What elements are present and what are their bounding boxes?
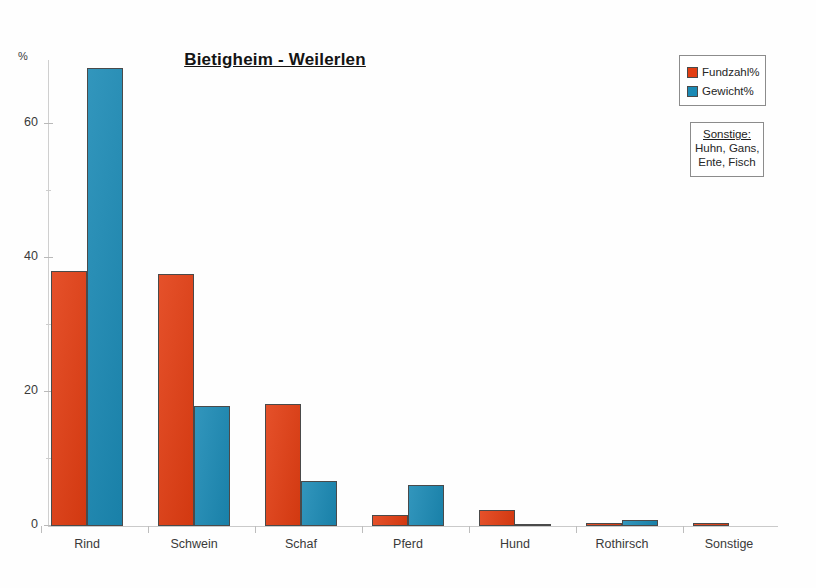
x-axis-label-rothirsch: Rothirsch bbox=[562, 537, 682, 551]
x-tick-mark-sonstige bbox=[683, 526, 684, 533]
x-axis-label-pferd: Pferd bbox=[348, 537, 468, 551]
legend-label-fundzahl: Fundzahl% bbox=[702, 66, 760, 78]
legend-swatch-icon-gewicht bbox=[687, 86, 698, 97]
note-line-1: Huhn, Gans, bbox=[695, 141, 759, 155]
x-tick-mark-hund bbox=[469, 526, 470, 533]
bar-schwein-gewicht bbox=[194, 406, 230, 526]
x-axis-label-hund: Hund bbox=[455, 537, 575, 551]
bar-hund-fundzahl bbox=[479, 510, 515, 526]
x-axis-label-schwein: Schwein bbox=[134, 537, 254, 551]
bar-hund-gewicht bbox=[515, 524, 551, 526]
x-tick-mark-pferd bbox=[362, 526, 363, 533]
x-tick-mark-rothirsch bbox=[576, 526, 577, 533]
legend-label-gewicht: Gewicht% bbox=[702, 85, 754, 97]
x-axis-label-sonstige: Sonstige bbox=[669, 537, 789, 551]
bar-sonstige-fundzahl bbox=[693, 523, 729, 526]
bar-schaf-fundzahl bbox=[265, 404, 301, 526]
x-tick-mark-rind bbox=[41, 526, 42, 533]
legend: Fundzahl% Gewicht% bbox=[679, 55, 766, 106]
x-tick-mark-schwein bbox=[148, 526, 149, 533]
bar-schaf-gewicht bbox=[301, 481, 337, 526]
note-box-sonstige: Sonstige: Huhn, Gans, Ente, Fisch bbox=[690, 122, 764, 177]
bar-pferd-gewicht bbox=[408, 485, 444, 526]
bar-rind-gewicht bbox=[87, 68, 123, 526]
x-axis-label-schaf: Schaf bbox=[241, 537, 361, 551]
legend-item-gewicht[interactable]: Gewicht% bbox=[687, 85, 760, 97]
x-axis-label-rind: Rind bbox=[27, 537, 147, 551]
bar-pferd-fundzahl bbox=[372, 515, 408, 526]
bar-rind-fundzahl bbox=[51, 271, 87, 526]
bar-rothirsch-gewicht bbox=[622, 520, 658, 526]
note-title: Sonstige: bbox=[695, 128, 759, 140]
chart-canvas: Bietigheim - Weilerlen % 6040200 RindSch… bbox=[0, 0, 816, 588]
x-tick-mark-schaf bbox=[255, 526, 256, 533]
legend-item-fundzahl[interactable]: Fundzahl% bbox=[687, 66, 760, 78]
bar-rothirsch-fundzahl bbox=[586, 523, 622, 526]
note-line-2: Ente, Fisch bbox=[695, 155, 759, 169]
legend-swatch-icon-fundzahl bbox=[687, 67, 698, 78]
bar-schwein-fundzahl bbox=[158, 274, 194, 526]
